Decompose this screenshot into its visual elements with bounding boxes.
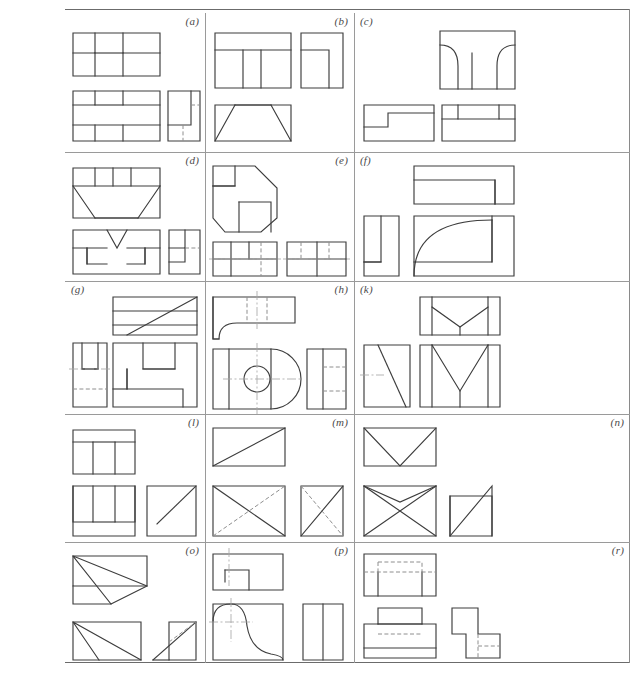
cell-l[interactable]: (l) bbox=[65, 414, 205, 542]
cell-r[interactable]: (r) bbox=[354, 542, 630, 663]
cell-a-drawing bbox=[65, 13, 205, 152]
cell-h-drawing bbox=[205, 281, 354, 414]
view-side-step-block bbox=[169, 230, 200, 274]
page-frame: (a) bbox=[65, 9, 630, 663]
cell-b-drawing bbox=[205, 13, 354, 152]
view-top-stepped-bar bbox=[414, 166, 514, 204]
view-top-slotted bbox=[209, 242, 281, 276]
view-front-t-slot bbox=[73, 486, 135, 536]
view-top-double-notch bbox=[442, 105, 515, 141]
cell-n-label: (n) bbox=[611, 416, 624, 428]
cell-e-drawing bbox=[205, 152, 354, 281]
view-side-l-block bbox=[301, 33, 343, 88]
view-side-triangle bbox=[450, 486, 492, 536]
cell-f[interactable]: (f) bbox=[354, 152, 630, 281]
cell-p-drawing bbox=[205, 542, 354, 663]
view-top-slot bbox=[213, 548, 283, 590]
view-side-diagonal bbox=[360, 345, 410, 407]
view-front-u-block bbox=[73, 33, 160, 76]
cell-m-drawing bbox=[205, 414, 354, 542]
view-front-u-slot bbox=[73, 343, 107, 407]
cell-m[interactable]: (m) bbox=[205, 414, 354, 542]
cell-p[interactable]: (p) bbox=[205, 542, 354, 663]
cell-p-label: (p) bbox=[335, 544, 348, 556]
view-front-twin-fillet bbox=[440, 31, 515, 89]
view-top-t-slot bbox=[73, 430, 135, 474]
view-side-slotted bbox=[283, 242, 350, 276]
view-side-diagonal bbox=[147, 486, 196, 536]
cell-b-label: (b) bbox=[335, 15, 348, 27]
cell-g-label: (g) bbox=[71, 283, 84, 295]
view-front-stepped-pedestal bbox=[364, 608, 436, 658]
view-top-diagonal bbox=[213, 428, 285, 466]
cell-d-label: (d) bbox=[186, 154, 199, 166]
cell-o-drawing bbox=[65, 542, 205, 663]
cell-a-label: (a) bbox=[186, 15, 199, 27]
view-side-channel bbox=[364, 216, 399, 276]
view-side-triangle bbox=[153, 622, 196, 660]
cell-f-label: (f) bbox=[360, 154, 371, 166]
view-front-crossed bbox=[213, 486, 285, 536]
view-bottom-t-block bbox=[73, 91, 160, 141]
cell-e[interactable]: (e) bbox=[205, 152, 354, 281]
view-top-fan-triangles bbox=[73, 556, 147, 604]
cell-m-label: (m) bbox=[332, 416, 348, 428]
cell-d[interactable]: (d) bbox=[65, 152, 205, 281]
cell-o[interactable]: (o) bbox=[65, 542, 205, 663]
cell-a[interactable]: (a) bbox=[65, 13, 205, 152]
view-top-hidden-recess bbox=[364, 554, 436, 596]
cell-g-drawing bbox=[65, 281, 205, 414]
view-top-ribbed-block bbox=[73, 168, 160, 218]
view-side-z-profile bbox=[452, 608, 500, 658]
cell-k-drawing bbox=[354, 281, 630, 414]
view-side-stepped-block bbox=[168, 91, 200, 141]
cell-h[interactable]: (h) bbox=[205, 281, 354, 414]
view-top-vee-groove bbox=[420, 297, 500, 335]
cell-r-label: (r) bbox=[612, 544, 624, 556]
view-top-vee bbox=[364, 428, 436, 466]
view-front-vee-groove bbox=[420, 345, 500, 407]
cell-l-drawing bbox=[65, 414, 205, 542]
view-side-crossed bbox=[301, 486, 343, 536]
cell-o-label: (o) bbox=[186, 544, 199, 556]
exercise-sheet: (a) bbox=[0, 0, 640, 675]
cell-c-label: (c) bbox=[360, 15, 373, 27]
cell-c-drawing bbox=[354, 13, 630, 152]
cell-n[interactable]: (n) bbox=[354, 414, 630, 542]
view-top-rounded-end bbox=[213, 291, 295, 339]
view-front-fan-triangles bbox=[73, 622, 141, 660]
view-side-stepped bbox=[69, 343, 197, 407]
view-side-divided bbox=[303, 604, 343, 660]
view-side-step bbox=[364, 105, 434, 141]
cell-r-drawing bbox=[354, 542, 630, 663]
cell-f-drawing bbox=[354, 152, 630, 281]
problem-grid: (a) bbox=[65, 13, 630, 658]
view-front-chamfered-outline bbox=[213, 166, 277, 232]
view-top-inclined-face bbox=[113, 297, 197, 335]
cell-h-label: (h) bbox=[335, 283, 348, 295]
cell-c[interactable]: (c) bbox=[354, 13, 630, 152]
cell-d-drawing bbox=[65, 152, 205, 281]
cell-e-label: (e) bbox=[335, 154, 348, 166]
cell-b[interactable]: (b) bbox=[205, 13, 354, 152]
view-top-trapezoid bbox=[215, 105, 291, 141]
view-front-slot-block bbox=[215, 33, 291, 88]
view-front-quarter-round bbox=[414, 216, 514, 276]
cell-l-label: (l) bbox=[188, 416, 199, 428]
view-front-crossed-vee bbox=[364, 486, 436, 536]
cell-k[interactable]: (k) bbox=[354, 281, 630, 414]
cell-k-label: (k) bbox=[360, 283, 373, 295]
view-front-vee-notch bbox=[73, 230, 160, 274]
view-side-slotted bbox=[307, 349, 346, 409]
cell-g[interactable]: (g) bbox=[65, 281, 205, 414]
view-front-s-curve bbox=[209, 598, 283, 660]
view-front-with-hole bbox=[213, 343, 301, 414]
cell-n-drawing bbox=[354, 414, 630, 542]
frame-top-rule bbox=[65, 9, 630, 10]
